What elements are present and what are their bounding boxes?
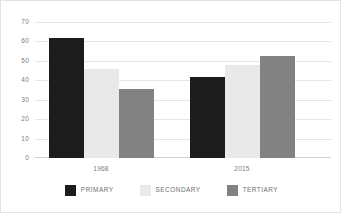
y-tick-20: 20 <box>7 116 29 123</box>
bar-2015-secondary <box>225 65 260 158</box>
bar-1968-primary <box>49 38 84 158</box>
primary-swatch-icon <box>65 185 76 196</box>
legend-item-secondary: SECONDARY <box>140 185 201 196</box>
x-tick-2015: 2015 <box>234 165 249 172</box>
bar-1968-secondary <box>84 69 119 158</box>
x-tick-1968: 1968 <box>93 165 108 172</box>
legend-label-secondary: SECONDARY <box>156 187 201 194</box>
y-tick-30: 30 <box>7 97 29 104</box>
legend-item-primary: PRIMARY <box>65 185 114 196</box>
legend-item-tertiary: TERTIARY <box>227 185 279 196</box>
plot-area <box>35 22 331 158</box>
legend-label-tertiary: TERTIARY <box>243 187 279 194</box>
bar-1968-tertiary <box>119 89 154 158</box>
y-tick-0: 0 <box>7 155 29 162</box>
y-tick-50: 50 <box>7 58 29 65</box>
y-tick-60: 60 <box>7 38 29 45</box>
y-tick-10: 10 <box>7 136 29 143</box>
gridline-70 <box>35 22 331 23</box>
chart-legend: PRIMARY SECONDARY TERTIARY <box>1 185 341 196</box>
y-tick-40: 40 <box>7 77 29 84</box>
legend-label-primary: PRIMARY <box>81 187 114 194</box>
bar-2015-primary <box>190 77 225 158</box>
bar-2015-tertiary <box>260 56 295 158</box>
tertiary-swatch-icon <box>227 185 238 196</box>
grouped-bar-chart: 70 60 50 40 30 20 10 0 1968 2015 PRIMARY <box>0 0 341 213</box>
secondary-swatch-icon <box>140 185 151 196</box>
y-tick-70: 70 <box>7 19 29 26</box>
